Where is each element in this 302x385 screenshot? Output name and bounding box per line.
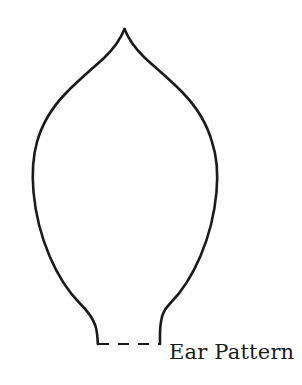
canvas-background — [0, 0, 302, 385]
ear-pattern-drawing — [0, 0, 302, 385]
pattern-caption: Ear Pattern — [169, 340, 294, 364]
pattern-page: Ear Pattern — [0, 0, 302, 385]
